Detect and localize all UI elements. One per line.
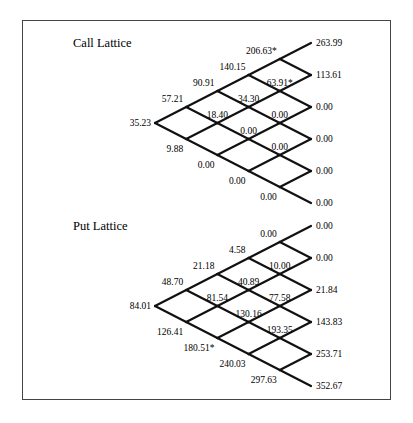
lattice-edge-up — [249, 59, 280, 75]
lattice-diagram: Call Lattice35.239.8857.210.0018.4090.91… — [0, 0, 413, 423]
lattice-edge-down — [280, 123, 311, 139]
lattice-edge-up — [155, 290, 186, 306]
lattice-edge-down — [280, 91, 311, 107]
lattice-edge-down — [155, 123, 186, 139]
call-lattice: Call Lattice35.239.8857.210.0018.4090.91… — [73, 36, 342, 208]
node-value: 0.00 — [260, 229, 277, 239]
node-value: 240.03 — [219, 359, 245, 369]
lattice-edge-down — [155, 306, 186, 322]
node-value: 57.21 — [162, 94, 184, 104]
lattice-edge-up — [280, 226, 311, 242]
lattice-edge-up — [249, 155, 280, 171]
node-value: 143.83 — [316, 317, 342, 327]
lattice-edge-up — [249, 242, 280, 258]
node-value: 63.91* — [267, 78, 293, 88]
lattice-edge-down — [249, 354, 280, 370]
lattice-edge-up — [155, 107, 186, 123]
node-value: 4.58 — [229, 245, 246, 255]
node-value: 0.00 — [316, 198, 333, 208]
node-value: 206.63* — [246, 46, 277, 56]
lattice-edge-down — [217, 155, 248, 171]
node-value: 130.16 — [236, 309, 262, 319]
node-value: 126.41 — [157, 327, 183, 337]
node-value: 0.00 — [240, 126, 257, 136]
node-value: 77.58 — [269, 293, 291, 303]
lattice-edge-down — [249, 171, 280, 187]
lattice-edge-up — [280, 43, 311, 59]
lattice-edge-down — [186, 322, 217, 338]
node-value: 0.00 — [271, 142, 288, 152]
lattice-edge-down — [280, 338, 311, 354]
lattice-edge-down — [280, 187, 311, 203]
lattice-edge-down — [280, 242, 311, 258]
node-value: 140.15 — [219, 62, 245, 72]
node-value: 21.18 — [193, 261, 215, 271]
lattice-edge-down — [186, 139, 217, 155]
lattice-edge-up — [186, 274, 217, 290]
lattice-edge-up — [217, 258, 248, 274]
lattice-title: Call Lattice — [73, 36, 132, 50]
node-value: 0.00 — [316, 221, 333, 231]
node-value: 193.35 — [267, 325, 293, 335]
node-value: 10.00 — [269, 261, 291, 271]
node-value: 263.99 — [316, 38, 342, 48]
node-value: 90.91 — [193, 78, 215, 88]
node-value: 21.84 — [316, 285, 338, 295]
lattice-edge-down — [217, 338, 248, 354]
lattice-edge-down — [280, 370, 311, 386]
node-value: 48.70 — [162, 277, 184, 287]
node-value: 9.88 — [167, 144, 184, 154]
node-value: 0.00 — [316, 134, 333, 144]
node-value: 18.40 — [207, 110, 229, 120]
node-value: 180.51* — [184, 343, 215, 353]
lattice-edge-down — [280, 306, 311, 322]
node-value: 113.61 — [316, 70, 342, 80]
node-value: 35.23 — [130, 118, 152, 128]
lattice-edge-up — [280, 354, 311, 370]
node-value: 297.63 — [251, 375, 277, 385]
lattice-edge-down — [280, 274, 311, 290]
node-value: 0.00 — [316, 253, 333, 263]
node-value: 0.00 — [316, 166, 333, 176]
lattice-edge-up — [186, 306, 217, 322]
put-lattice: Put Lattice84.01126.4148.70180.51*81.542… — [73, 219, 342, 391]
lattice-title: Put Lattice — [73, 219, 128, 233]
lattice-edge-up — [186, 91, 217, 107]
node-value: 40.89 — [238, 277, 260, 287]
lattice-edge-up — [217, 139, 248, 155]
node-value: 0.00 — [271, 110, 288, 120]
node-value: 84.01 — [130, 301, 152, 311]
node-value: 0.00 — [198, 160, 215, 170]
node-value: 81.54 — [207, 293, 229, 303]
lattice-edge-up — [186, 123, 217, 139]
lattice-edge-down — [280, 59, 311, 75]
lattice-edge-up — [217, 322, 248, 338]
node-value: 0.00 — [229, 176, 246, 186]
node-value: 352.67 — [316, 381, 342, 391]
node-value: 0.00 — [260, 192, 277, 202]
lattice-edge-up — [217, 75, 248, 91]
node-value: 0.00 — [316, 102, 333, 112]
lattice-edge-up — [280, 171, 311, 187]
lattice-edge-up — [249, 338, 280, 354]
node-value: 253.71 — [316, 349, 342, 359]
node-value: 34.30 — [238, 94, 260, 104]
lattice-edge-down — [280, 155, 311, 171]
